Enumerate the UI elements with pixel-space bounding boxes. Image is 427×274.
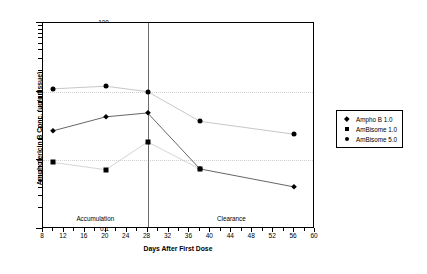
legend-label: Ampho B 1.0: [356, 116, 392, 123]
x-tick-label: 52: [269, 232, 276, 239]
circle-marker-icon: [341, 137, 353, 141]
x-tick-label: 28: [143, 232, 150, 239]
square-marker-icon: [341, 127, 353, 131]
data-point: [197, 166, 202, 171]
x-tick-label: 8: [40, 232, 44, 239]
data-point: [103, 167, 108, 172]
series-line: [53, 113, 294, 187]
plot-area: AccumulationClearance: [42, 22, 314, 228]
x-tick-label: 60: [310, 232, 317, 239]
x-tick-label: 16: [80, 232, 87, 239]
x-tick-label: 12: [59, 232, 66, 239]
legend-item[interactable]: AmBisome 1.0: [341, 124, 397, 134]
x-tick-label: 40: [206, 232, 213, 239]
data-point: [145, 89, 150, 94]
data-point: [197, 119, 202, 124]
data-point: [51, 86, 56, 91]
annotation-label: Accumulation: [76, 215, 114, 222]
x-tick-label: 56: [289, 232, 296, 239]
x-tick-label: 24: [122, 232, 129, 239]
legend-label: AmBisome 1.0: [356, 126, 397, 133]
diamond-marker-icon: [341, 117, 353, 121]
x-tick-label: 36: [185, 232, 192, 239]
series-line: [53, 86, 294, 134]
data-point: [51, 160, 56, 165]
x-tick-label: 44: [227, 232, 234, 239]
annotation-label: Clearance: [217, 215, 246, 222]
figure: Amphotericin B Conc. (µg/g tissue) Days …: [0, 0, 427, 274]
series-lines: [43, 23, 315, 229]
x-tick-label: 32: [164, 232, 171, 239]
legend-item[interactable]: AmBisome 5.0: [341, 134, 397, 144]
series-line: [53, 142, 199, 170]
x-axis-label: Days After First Dose: [42, 245, 314, 252]
data-point: [103, 84, 108, 89]
x-tick-label: 20: [101, 232, 108, 239]
data-point: [145, 139, 150, 144]
x-tick-label: 48: [248, 232, 255, 239]
legend-item[interactable]: Ampho B 1.0: [341, 114, 397, 124]
legend: Ampho B 1.0AmBisome 1.0AmBisome 5.0: [336, 110, 403, 148]
legend-label: AmBisome 5.0: [356, 136, 397, 143]
data-point: [292, 132, 297, 137]
